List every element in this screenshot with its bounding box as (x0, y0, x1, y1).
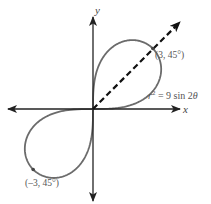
point-label-3-45: (3, 45°) (155, 50, 184, 61)
equation-rhs: = 9 sin 2 (155, 90, 192, 101)
y-axis-label: y (94, 4, 100, 16)
point-neg3-45 (31, 168, 35, 172)
x-axis-label: x (182, 103, 188, 115)
equation-theta: θ (193, 90, 198, 101)
polar-plot: y x (3, 45°) (–3, 45°) r2 = 9 sin 2θ (0, 0, 211, 204)
equation-label: r2 = 9 sin 2θ (148, 89, 198, 101)
point-label-neg3-45: (–3, 45°) (25, 178, 59, 189)
polar-graph-figure: y x (3, 45°) (–3, 45°) r2 = 9 sin 2θ (0, 0, 211, 204)
